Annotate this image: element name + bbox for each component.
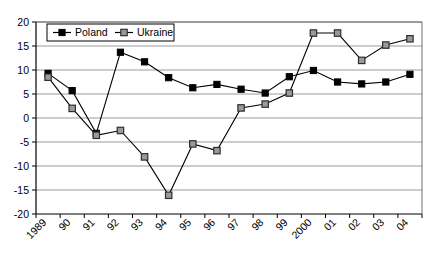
data-point-marker-poland: [69, 88, 75, 94]
data-point-marker-poland: [262, 90, 268, 96]
data-point-marker-ukraine: [286, 90, 292, 96]
series-line-poland: [48, 52, 410, 133]
data-series: [45, 30, 413, 199]
x-tick-label: 91: [80, 216, 97, 233]
gridlines: [36, 22, 422, 190]
data-point-marker-poland: [214, 81, 220, 87]
data-point-marker-ukraine: [214, 147, 220, 153]
chart-legend: PolandUkraine: [47, 24, 174, 41]
y-tick-label: 0: [23, 112, 29, 124]
data-point-marker-poland: [334, 79, 340, 85]
data-point-marker-poland: [190, 85, 196, 91]
data-point-marker-ukraine: [165, 192, 171, 198]
data-point-marker-ukraine: [93, 132, 99, 138]
y-axis-tick-labels: 20151050-5-10-15-20: [14, 16, 29, 220]
data-point-marker-ukraine: [310, 30, 316, 36]
data-point-marker-ukraine: [45, 74, 51, 80]
data-point-marker-ukraine: [238, 105, 244, 111]
x-tick-label: 94: [152, 216, 169, 233]
series-poland: [45, 49, 413, 136]
x-tick-label: 90: [56, 216, 73, 233]
data-point-marker-ukraine: [334, 30, 340, 36]
y-tick-label: -5: [20, 136, 29, 148]
data-point-marker-poland: [407, 71, 413, 77]
legend-marker-ukraine: [121, 29, 127, 35]
data-point-marker-ukraine: [141, 154, 147, 160]
data-point-marker-poland: [383, 79, 389, 85]
legend-label-poland: Poland: [75, 26, 108, 38]
data-point-marker-poland: [310, 67, 316, 73]
series-ukraine: [45, 30, 413, 199]
y-tick-label: 15: [17, 40, 29, 52]
line-chart: 20151050-5-10-15-20 19899091929394959697…: [0, 0, 438, 255]
data-point-marker-poland: [286, 74, 292, 80]
x-tick-label: 95: [176, 216, 193, 233]
data-point-marker-ukraine: [262, 101, 268, 107]
x-tick-label: 98: [249, 216, 266, 233]
x-tick-label: 02: [345, 216, 362, 233]
data-point-marker-poland: [238, 86, 244, 92]
x-tick-label: 2000: [289, 216, 314, 241]
x-tick-label: 93: [128, 216, 145, 233]
y-tick-label: -10: [14, 160, 29, 172]
x-tick-label: 01: [321, 216, 338, 233]
y-tick-label: 10: [17, 64, 29, 76]
data-point-marker-poland: [359, 81, 365, 87]
data-point-marker-ukraine: [117, 127, 123, 133]
data-point-marker-poland: [117, 49, 123, 55]
x-axis-ticks: [36, 214, 422, 218]
x-tick-label: 03: [369, 216, 386, 233]
legend-marker-poland: [59, 29, 65, 35]
y-tick-label: -20: [14, 208, 29, 220]
x-axis-tick-labels: 198990919293949596979899200001020304: [23, 216, 410, 241]
x-tick-label: 92: [104, 216, 121, 233]
x-tick-label: 96: [201, 216, 218, 233]
data-point-marker-poland: [166, 75, 172, 81]
data-point-marker-ukraine: [69, 105, 75, 111]
data-point-marker-ukraine: [190, 141, 196, 147]
y-tick-label: -15: [14, 184, 29, 196]
x-tick-label: 99: [273, 216, 290, 233]
data-point-marker-ukraine: [407, 36, 413, 42]
y-tick-label: 20: [17, 16, 29, 28]
chart-container: 20151050-5-10-15-20 19899091929394959697…: [0, 0, 438, 255]
x-tick-label: 97: [225, 216, 242, 233]
legend-label-ukraine: Ukraine: [137, 26, 173, 38]
data-point-marker-poland: [141, 59, 147, 65]
data-point-marker-ukraine: [358, 57, 364, 63]
y-tick-label: 5: [23, 88, 29, 100]
x-tick-label: 04: [394, 216, 411, 233]
data-point-marker-ukraine: [383, 42, 389, 48]
